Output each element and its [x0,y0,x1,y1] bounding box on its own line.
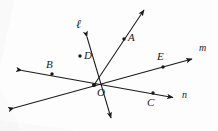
figure-canvas [0,0,218,131]
point-label-d: D [84,50,92,61]
geometry-figure: A B C D E O ℓ m n [0,0,218,131]
point-dot-o [92,83,96,87]
point-label-c: C [147,97,154,108]
point-dot-c [151,91,154,94]
point-dot-b [50,72,53,75]
point-label-a: A [128,32,135,43]
point-label-e: E [157,51,164,62]
point-label-o: O [97,87,105,98]
point-label-b: B [46,59,53,70]
line-m [14,59,192,108]
point-dot-e [161,65,164,68]
line-label-ell: ℓ [76,18,81,30]
line-label-n: n [182,90,187,100]
point-dot-a [122,37,125,40]
point-dot-d [78,54,81,57]
line-label-m: m [199,43,206,53]
